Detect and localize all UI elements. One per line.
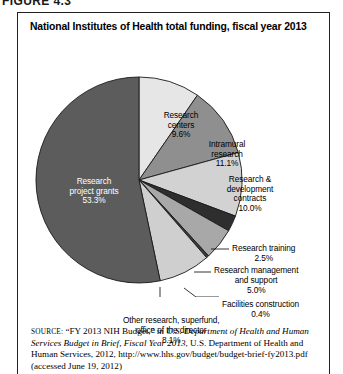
slice-label-research-project-grants: Research project grants 53.3% [48,177,140,206]
slice-label-research-centers: Research centers 9.6% [150,111,212,140]
slice-label-intramural-research: Intramural research 11.1% [196,140,258,169]
callout-research-training: Research training 2.5% [232,244,295,264]
slice-label-rd-contracts: Research & development contracts 10.0% [214,175,286,213]
slice-value: 10.0% [214,204,286,214]
figure-frame: National Institutes of Health total fund… [17,12,330,374]
callout-value: 2.5% [232,254,295,264]
source-label: SOURCE: [31,327,63,336]
callout-value: 5.0% [214,286,298,296]
source-note: SOURCE: “FY 2013 NIH Budget,” in U.S. De… [31,326,319,372]
pie-chart: Research project grants 53.3% Research c… [18,35,329,297]
callout-facilities-construction: Facilities construction 0.4% [222,300,299,320]
figure-number: FIGURE 4.3 [2,0,71,8]
slice-value: 9.6% [150,130,212,140]
source-text-part1: “FY 2013 NIH Budget,” in [63,326,166,336]
slice-value: 53.3% [48,196,140,206]
chart-title: National Institutes of Health total fund… [30,20,322,33]
callout-research-management: Research management and support 5.0% [214,266,298,295]
callout-value: 0.4% [222,310,299,320]
slice-value: 11.1% [196,159,258,169]
